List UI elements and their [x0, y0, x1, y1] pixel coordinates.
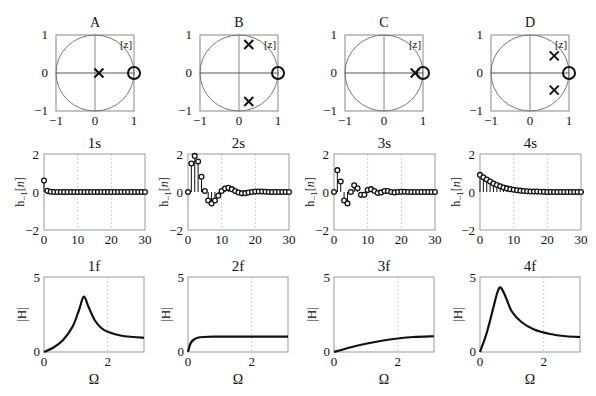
x-tick-label: 0 [236, 113, 243, 128]
z-plane-label: [z] [409, 38, 421, 50]
y-axis-label: |H| [450, 307, 465, 322]
x-tick-label: −1 [193, 113, 207, 128]
x-tick-label: 1 [275, 113, 282, 128]
y-tick-label: 0 [42, 65, 49, 80]
y-tick-label: 0 [33, 185, 40, 200]
y-axis-label: h−1[n] [157, 177, 173, 207]
x-tick-label: 20 [541, 232, 554, 247]
stem-marker [332, 190, 337, 195]
stem-marker [338, 179, 343, 184]
magnitude-curve [334, 336, 434, 352]
panel-title: 4s [524, 135, 538, 151]
z-plane-label: [z] [264, 38, 276, 50]
y-tick-label: 5 [324, 270, 331, 285]
x-tick-label: 0 [381, 113, 388, 128]
x-tick-label: 0 [185, 354, 192, 369]
impulse-response-plot-2s: 2s010203020−2h−1[n] [157, 135, 296, 247]
y-tick-label: 0 [177, 185, 184, 200]
stem-marker [199, 174, 204, 179]
stem-marker [345, 201, 350, 206]
y-tick-label: 1 [42, 27, 49, 42]
x-tick-label: 20 [105, 232, 118, 247]
x-tick-label: 0 [41, 232, 48, 247]
axes-box [480, 277, 580, 352]
pole-zero-plot-A: A[z]−10110−1 [34, 15, 140, 128]
y-tick-label: 0 [477, 65, 484, 80]
y-axis-label: h−1[n] [13, 177, 29, 207]
x-tick-label: 2 [104, 354, 111, 369]
y-tick-label: −2 [169, 223, 183, 238]
figure-canvas: A[z]−10110−1B[z]−10110−1C[z]−10110−1D[z]… [0, 0, 596, 396]
y-tick-label: 0 [178, 344, 185, 359]
panel-title: D [525, 15, 535, 30]
stem-marker [348, 190, 353, 195]
y-tick-label: 0 [469, 185, 476, 200]
y-tick-label: 1 [186, 27, 193, 42]
y-tick-label: 0 [186, 65, 193, 80]
x-axis-label: Ω [379, 372, 389, 387]
y-tick-label: −1 [323, 103, 337, 118]
impulse-response-plot-4s: 4s010203020−2h−1[n] [449, 135, 588, 247]
x-tick-label: −1 [49, 113, 63, 128]
y-tick-label: 2 [323, 147, 330, 162]
y-tick-label: 1 [477, 27, 484, 42]
y-tick-label: 2 [33, 147, 40, 162]
x-axis-label: Ω [89, 372, 99, 387]
x-tick-label: −1 [484, 113, 498, 128]
stem-marker [355, 186, 360, 191]
x-tick-label: 0 [477, 354, 484, 369]
z-plane-label: [z] [120, 38, 132, 50]
panel-title: 3s [378, 135, 392, 151]
y-tick-label: 0 [324, 344, 331, 359]
stem-marker [202, 189, 207, 194]
frequency-response-plot-4f: 4f0250Ω|H| [450, 258, 580, 387]
y-tick-label: −2 [461, 223, 475, 238]
stem-marker [189, 161, 194, 166]
panel-title: 1f [88, 258, 101, 274]
frequency-response-plot-2f: 2f0250Ω|H| [158, 258, 288, 387]
pole-zero-plot-D: D[z]−10110−1 [469, 15, 575, 128]
panel-title: 2f [232, 258, 245, 274]
x-tick-label: 1 [566, 113, 573, 128]
panel-title: C [379, 15, 388, 30]
x-tick-label: 20 [249, 232, 262, 247]
x-tick-label: 20 [395, 232, 408, 247]
y-tick-label: 1 [331, 27, 338, 42]
pole-zero-plot-C: C[z]−10110−1 [323, 15, 429, 128]
y-tick-label: 5 [178, 270, 185, 285]
y-axis-label: |H| [304, 307, 319, 322]
stem-marker [42, 178, 47, 183]
panel-title: B [234, 15, 243, 30]
stem-marker [579, 190, 584, 195]
axes-box [188, 277, 288, 352]
pole-x-marker [244, 97, 253, 106]
y-tick-label: 0 [331, 65, 338, 80]
y-tick-label: 0 [470, 344, 477, 359]
x-tick-label: 10 [215, 232, 228, 247]
y-tick-label: 5 [34, 270, 41, 285]
frequency-response-plot-1f: 1f0250Ω|H| [14, 258, 144, 387]
x-tick-label: 0 [527, 113, 534, 128]
x-tick-label: 10 [507, 232, 520, 247]
stem-marker [287, 190, 292, 195]
x-tick-label: 30 [283, 232, 296, 247]
x-axis-label: Ω [233, 372, 243, 387]
stem-marker [186, 190, 191, 195]
x-tick-label: 30 [575, 232, 588, 247]
x-tick-label: 30 [429, 232, 442, 247]
magnitude-curve [480, 287, 580, 352]
y-tick-label: −1 [178, 103, 192, 118]
y-axis-label: |H| [158, 307, 173, 322]
z-plane-label: [z] [555, 38, 567, 50]
y-tick-label: 0 [34, 344, 41, 359]
x-tick-label: 10 [361, 232, 374, 247]
x-tick-label: −1 [338, 113, 352, 128]
x-tick-label: 0 [92, 113, 99, 128]
stem-marker [335, 168, 340, 173]
x-tick-label: 1 [131, 113, 138, 128]
panel-title: 4f [524, 258, 537, 274]
y-tick-label: −1 [34, 103, 48, 118]
panel-title: 1s [88, 135, 102, 151]
impulse-response-plot-1s: 1s010203020−2h−1[n] [13, 135, 152, 247]
pole-x-marker [550, 86, 559, 95]
